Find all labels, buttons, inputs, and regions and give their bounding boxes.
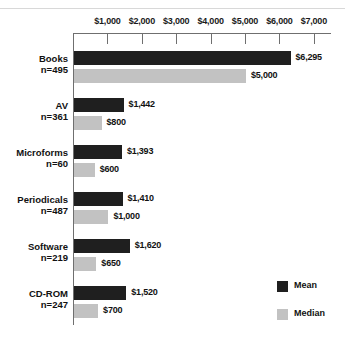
category-sample-size: n=247 bbox=[0, 299, 68, 310]
x-axis-tick-mark bbox=[142, 33, 143, 44]
bar-row: $1,000 bbox=[74, 210, 332, 224]
x-axis-tick-mark bbox=[107, 33, 108, 44]
legend-swatch-median bbox=[277, 309, 288, 320]
x-axis-tick-mark bbox=[211, 33, 212, 44]
bar-mean bbox=[74, 98, 124, 112]
category-label: Periodicalsn=487 bbox=[0, 194, 68, 216]
category-sample-size: n=219 bbox=[0, 252, 68, 263]
x-axis-tick-mark bbox=[279, 33, 280, 44]
bar-mean bbox=[74, 286, 126, 300]
bar-value-label: $1,442 bbox=[129, 99, 155, 109]
scan-artifact-line bbox=[0, 8, 345, 9]
x-axis-tick-label: $6,000 bbox=[266, 16, 292, 26]
category-name: Books bbox=[39, 53, 68, 64]
legend-item: Median bbox=[277, 308, 339, 326]
x-axis-tick-labels: $1,000$2,000$3,000$4,000$5,000$6,000$7,0… bbox=[73, 16, 331, 30]
bar-value-label: $1,393 bbox=[127, 146, 153, 156]
bar-mean bbox=[74, 145, 122, 159]
x-axis-tick-label: $3,000 bbox=[163, 16, 189, 26]
category-axis-labels: Booksn=495AVn=361Microformsn=60Periodica… bbox=[0, 45, 68, 325]
bar-row: $1,393 bbox=[74, 145, 332, 159]
category-name: Software bbox=[28, 241, 68, 252]
category-name: Microforms bbox=[16, 147, 68, 158]
category-sample-size: n=60 bbox=[0, 158, 68, 169]
bar-row: $650 bbox=[74, 257, 332, 271]
category-sample-size: n=361 bbox=[0, 111, 68, 122]
category-label: Booksn=495 bbox=[0, 53, 68, 75]
bar-mean bbox=[74, 51, 291, 65]
category-label: Softwaren=219 bbox=[0, 241, 68, 263]
bar-mean bbox=[74, 192, 123, 206]
bar-value-label: $1,000 bbox=[113, 211, 139, 221]
bar-row: $5,000 bbox=[74, 69, 332, 83]
bar-row: $600 bbox=[74, 163, 332, 177]
bar-row: $800 bbox=[74, 116, 332, 130]
bar-median bbox=[74, 304, 98, 318]
category-name: AV bbox=[56, 100, 69, 111]
bar-value-label: $1,620 bbox=[135, 240, 161, 250]
bar-median bbox=[74, 210, 108, 224]
bar-value-label: $700 bbox=[103, 305, 122, 315]
legend-item: Mean bbox=[277, 280, 339, 298]
x-axis-line bbox=[73, 33, 331, 34]
bar-row: $1,620 bbox=[74, 239, 332, 253]
bar-value-label: $1,410 bbox=[128, 193, 154, 203]
x-axis-tick-label: $2,000 bbox=[129, 16, 155, 26]
x-axis-tick-label: $7,000 bbox=[301, 16, 327, 26]
category-label: Microformsn=60 bbox=[0, 147, 68, 169]
bar-median bbox=[74, 257, 96, 271]
x-axis-tick-mark bbox=[245, 33, 246, 44]
legend-swatch-mean bbox=[277, 281, 288, 292]
bar-row: $1,410 bbox=[74, 192, 332, 206]
category-sample-size: n=495 bbox=[0, 64, 68, 75]
x-axis-tick-label: $1,000 bbox=[94, 16, 120, 26]
x-axis-tick-label: $5,000 bbox=[232, 16, 258, 26]
x-axis-tick-mark bbox=[176, 33, 177, 44]
category-label: AVn=361 bbox=[0, 100, 68, 122]
bar-value-label: $650 bbox=[101, 258, 120, 268]
bar-row: $1,442 bbox=[74, 98, 332, 112]
bar-median bbox=[74, 116, 102, 130]
bar-median bbox=[74, 163, 95, 177]
bar-value-label: $6,295 bbox=[296, 52, 322, 62]
bar-chart: $1,000$2,000$3,000$4,000$5,000$6,000$7,0… bbox=[0, 0, 345, 346]
category-sample-size: n=487 bbox=[0, 205, 68, 216]
category-label: CD-ROMn=247 bbox=[0, 288, 68, 310]
bar-value-label: $600 bbox=[100, 164, 119, 174]
bar-value-label: $1,520 bbox=[131, 287, 157, 297]
bar-mean bbox=[74, 239, 130, 253]
x-axis-tick-label: $4,000 bbox=[197, 16, 223, 26]
bar-value-label: $800 bbox=[107, 117, 126, 127]
legend-label: Mean bbox=[294, 280, 317, 290]
category-name: CD-ROM bbox=[29, 288, 68, 299]
bar-median bbox=[74, 69, 246, 83]
chart-legend: MeanMedian bbox=[277, 280, 339, 336]
x-axis-tick-mark bbox=[314, 33, 315, 44]
bar-value-label: $5,000 bbox=[251, 70, 277, 80]
legend-label: Median bbox=[294, 308, 325, 318]
bar-row: $6,295 bbox=[74, 51, 332, 65]
category-name: Periodicals bbox=[17, 194, 68, 205]
